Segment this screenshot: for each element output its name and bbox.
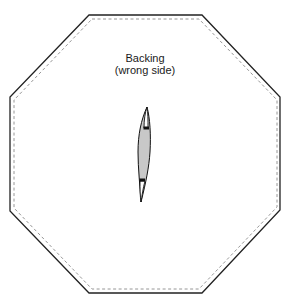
wrong-side-label: (wrong side) — [0, 64, 290, 76]
octagon-backing-diagram: Backing (wrong side) — [0, 0, 290, 306]
backing-label: Backing — [0, 52, 290, 64]
